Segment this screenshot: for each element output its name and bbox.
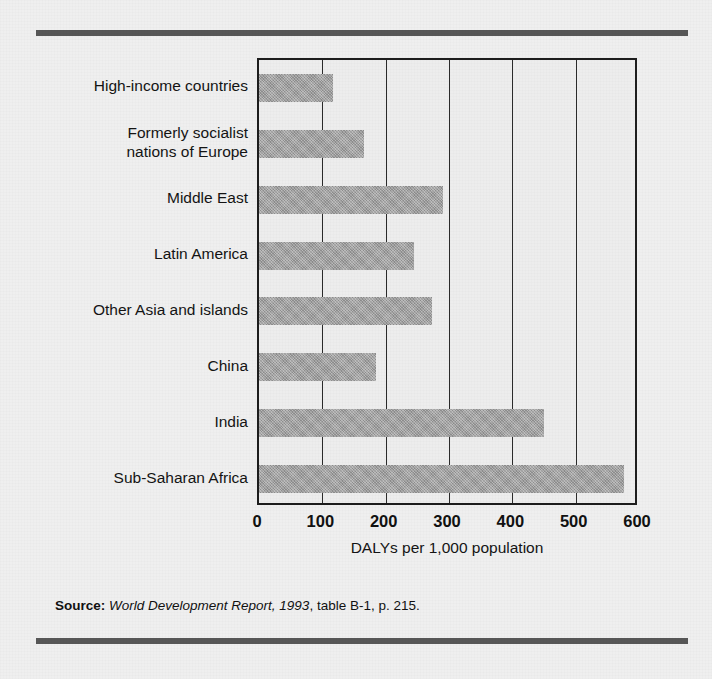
category-label-line: High-income countries bbox=[20, 76, 248, 95]
source-rest: , table B-1, p. 215. bbox=[309, 598, 419, 613]
figure-panel: High-income countriesFormerly socialistn… bbox=[0, 0, 712, 679]
bar bbox=[259, 242, 414, 270]
bar bbox=[259, 186, 443, 214]
category-label-line: Formerly socialist bbox=[20, 123, 248, 142]
bar bbox=[259, 74, 333, 102]
category-label-line: Sub-Saharan Africa bbox=[20, 468, 248, 487]
category-label-line: Other Asia and islands bbox=[20, 300, 248, 319]
bars-layer bbox=[259, 60, 635, 503]
bar bbox=[259, 130, 364, 158]
top-rule bbox=[36, 30, 688, 36]
source-title: World Development Report, 1993 bbox=[109, 598, 309, 613]
category-label: India bbox=[20, 412, 248, 431]
x-tick-label-200: 200 bbox=[370, 512, 398, 531]
category-label-line: India bbox=[20, 412, 248, 431]
bar bbox=[259, 465, 624, 493]
category-label-line: nations of Europe bbox=[20, 142, 248, 161]
category-label: High-income countries bbox=[20, 76, 248, 95]
bar bbox=[259, 297, 432, 325]
category-label-line: Middle East bbox=[20, 188, 248, 207]
category-label: Formerly socialistnations of Europe bbox=[20, 123, 248, 161]
category-label: Other Asia and islands bbox=[20, 300, 248, 319]
x-axis-tick-labels: 0100200300400500600 bbox=[257, 512, 637, 536]
source-note: Source: World Development Report, 1993, … bbox=[55, 598, 420, 613]
x-tick-label-0: 0 bbox=[252, 512, 261, 531]
plot-area bbox=[257, 58, 637, 505]
bar bbox=[259, 353, 376, 381]
category-label: China bbox=[20, 356, 248, 375]
bottom-rule bbox=[36, 638, 688, 644]
x-tick-label-400: 400 bbox=[497, 512, 525, 531]
category-label: Latin America bbox=[20, 244, 248, 263]
category-label-line: China bbox=[20, 356, 248, 375]
bar bbox=[259, 409, 544, 437]
category-label: Middle East bbox=[20, 188, 248, 207]
x-tick-label-100: 100 bbox=[307, 512, 335, 531]
x-axis-title: DALYs per 1,000 population bbox=[257, 539, 637, 557]
category-label-line: Latin America bbox=[20, 244, 248, 263]
x-tick-label-600: 600 bbox=[623, 512, 651, 531]
x-tick-label-300: 300 bbox=[433, 512, 461, 531]
source-label: Source: bbox=[55, 598, 105, 613]
category-label: Sub-Saharan Africa bbox=[20, 468, 248, 487]
category-axis-labels: High-income countriesFormerly socialistn… bbox=[20, 58, 248, 505]
x-tick-label-500: 500 bbox=[560, 512, 588, 531]
